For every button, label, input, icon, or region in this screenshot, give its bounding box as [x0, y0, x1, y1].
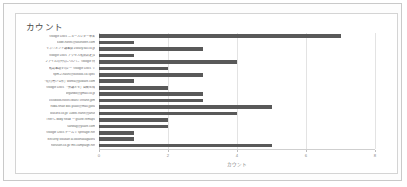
x-tick-mark — [375, 150, 376, 152]
category-label: Google Docs アクセス権限設定 ja — [49, 54, 95, 58]
bar — [99, 144, 272, 148]
category-label: Google Docs ニュースレター草案 — [49, 34, 95, 38]
bar — [99, 34, 341, 38]
x-tick-mark — [306, 150, 307, 152]
category-label: sanbag@yuare.com — [67, 125, 95, 129]
gridline-8 — [375, 33, 376, 149]
category-label: マネジメント議事録 1/wavy.tail.co.jp — [46, 47, 95, 51]
bar — [99, 99, 203, 103]
bar — [99, 92, 203, 96]
bar — [99, 125, 168, 129]
x-tick-label: 2 — [167, 153, 169, 158]
category-label: Google Docs 「会議メモ」自動生成 — [46, 86, 95, 90]
category-label: 「貼付用ひな形」wonta@yuware.com — [43, 79, 95, 83]
chart-title: カウント — [26, 20, 63, 32]
bar — [99, 67, 168, 71]
bar-row — [99, 142, 375, 148]
category-label: kobe-notes@kounoten.com — [57, 41, 95, 45]
x-axis-title: カウント — [99, 161, 375, 167]
category-label: ファイルの共有について、Google 側 — [45, 60, 95, 64]
bar — [99, 79, 134, 83]
outer-frame: カウント Google Docs ニュースレター草案kobe-notes@kou… — [3, 3, 402, 181]
bar — [99, 137, 134, 141]
category-label: Security kikukan ai.okionakagaloru — [47, 137, 95, 141]
x-tick-label: 8 — [374, 153, 376, 158]
category-label: orgando@gmail.co.jp — [66, 92, 95, 96]
x-tick-label: 4 — [236, 153, 238, 158]
category-label: tousoro.co.jp/ 10bec.nane@janut — [50, 112, 95, 116]
category-label: clickbook.hoshi.libarc/ chrane.jpm — [49, 99, 95, 103]
category-label: Ther C body head ー gsuite.remaps — [46, 118, 95, 122]
x-tick-mark — [237, 150, 238, 152]
category-axis-labels: Google Docs ニュースレター草案kobe-notes@kounoten… — [16, 33, 97, 149]
category-label: Google Docs チームで spreagle.net — [46, 131, 95, 135]
x-tick-mark — [168, 150, 169, 152]
bar — [99, 47, 203, 51]
bar — [99, 118, 168, 122]
category-label: hoda.tinae doc.yuaki@mail.jyotu — [50, 105, 95, 109]
x-tick-label: 6 — [305, 153, 307, 158]
x-tick-mark — [99, 150, 100, 152]
bar — [99, 112, 237, 116]
bar — [99, 41, 134, 45]
bar — [99, 60, 237, 64]
category-label-row: horuson.co.jp/ mtl-campaign.net — [16, 142, 97, 148]
category-label: 確認事項その2 ー Google Docs で — [49, 67, 95, 71]
plot-area — [99, 33, 375, 149]
bar — [99, 73, 203, 77]
chart-card: カウント Google Docs ニュースレター草案kobe-notes@kou… — [15, 13, 398, 174]
x-tick-label: 0 — [98, 153, 100, 158]
bar — [99, 54, 134, 58]
bar — [99, 131, 134, 135]
bar — [99, 105, 272, 109]
category-label: horuson.co.jp/ mtl-campaign.net — [51, 144, 95, 148]
category-label: tipm-2-hashi@outlook.co-spec — [53, 73, 95, 77]
bar-series — [99, 33, 375, 149]
bar — [99, 86, 168, 90]
